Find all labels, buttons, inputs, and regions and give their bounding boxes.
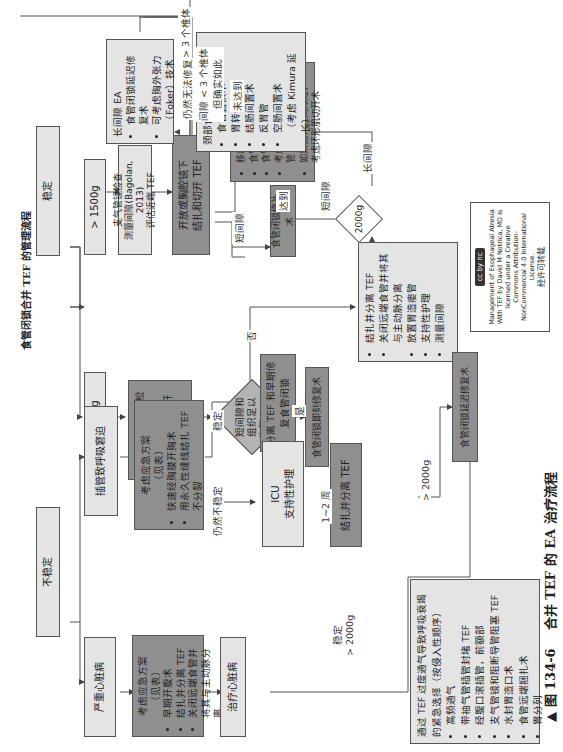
ligate-divide-item: 结扎并分离 TEF bbox=[363, 249, 377, 343]
figure-heading: 食管闭锁合并 TEF 的管理流程 bbox=[18, 211, 33, 350]
edge-label-weeks: 1~2 周 bbox=[318, 489, 332, 524]
edge-label-short-gap-1: 短间隙 bbox=[232, 212, 246, 244]
edge-label-yes: 是 bbox=[292, 405, 306, 417]
figure-caption: ▲ 图 134-6 合并 TEF 的 EA 治疗流程 bbox=[540, 472, 559, 722]
long-gap-ea-item: 食管闭锁延迟修复术 bbox=[124, 46, 150, 125]
decision-2000g: 2000g bbox=[334, 194, 384, 244]
edge-label-stable: 稳定 bbox=[210, 410, 224, 432]
node-treat-cardiac: 治疗心脏病 bbox=[220, 637, 246, 737]
caption-text: 合并 TEF 的 EA 治疗流程 bbox=[543, 472, 558, 630]
node-resp-distress: 插管致呼吸窘迫 bbox=[84, 406, 118, 516]
plan1-item: 用永久性缝线结扎 TEF 不分裂 bbox=[178, 407, 204, 511]
cc-license-icon: cc by nc bbox=[475, 248, 485, 285]
plan1-item: 快速经胸膜开胸术 bbox=[165, 407, 178, 511]
node-stable: 稳定 bbox=[36, 126, 60, 256]
edge-label-not-reached: 未达到 bbox=[230, 80, 244, 112]
edge-label-gap-lt3: 间隙 < 3 个椎体 但确实如此 bbox=[196, 47, 224, 122]
plan2-item: 结扎并分离 TEF bbox=[175, 642, 188, 718]
node-icu-support: ICU 支持性护理 bbox=[262, 441, 304, 547]
node-cardiac-severe: 严重心脏病 bbox=[84, 637, 116, 737]
node-long-gap-ea: 长间隙 EA 食管闭锁延迟修复术 可考虑胸外张力（Foker）技术 bbox=[106, 39, 174, 144]
plan1-title: 考虑应急方案 （见表） bbox=[139, 407, 165, 523]
edge-label-reached: 达到 bbox=[276, 190, 290, 212]
cervical-option: （考虑 Kimura 延长） bbox=[285, 39, 313, 133]
edge-label-stable-gt2000: 稳定 > 2000g bbox=[330, 614, 355, 657]
long-gap-ea-item: 可考虑胸外张力（Foker）技术 bbox=[150, 46, 176, 125]
node-split-tef-early: 分离 TEF 和早期修复食管闭锁 bbox=[260, 354, 296, 452]
cervical-option: 反胃管 bbox=[257, 39, 271, 133]
ligate-divide-item: 关闭远端食管并将其与主动脉分离 bbox=[377, 249, 405, 343]
node-unstable: 不稳定 bbox=[36, 507, 60, 637]
ligate-divide-item: 放置胃造瘘管 bbox=[405, 249, 419, 343]
plan2-item: 早期开腹术 bbox=[162, 642, 175, 718]
excessive-vent-item: 高频通气 bbox=[444, 586, 459, 725]
edge-label-short-gap-2: 短间隙 bbox=[318, 180, 332, 212]
rotated-figure: 食管闭锁合并 TEF 的管理流程 稳定 不稳定 > 1500g 支气管镜检查 测… bbox=[0, 0, 563, 752]
node-bronchoscopy-eval: 支气管镜检查 测量间隙(Bagolan, 2013) 评估近端 TEF bbox=[118, 145, 152, 255]
license-note: 经许可转载 bbox=[538, 209, 546, 325]
node-over-1500g: > 1500g bbox=[84, 159, 106, 255]
node-immediate-repair: 食管闭锁即刻修复术 bbox=[305, 367, 329, 467]
node-emergency-plan-1: 考虑应急方案 （见表） 快速经胸膜开胸术 用永久性缝线结扎 TEF 不分裂 bbox=[134, 400, 204, 530]
excessive-vent-item: 水封胃造口术 bbox=[502, 586, 517, 725]
cervical-option: 空肠间置术 bbox=[271, 39, 285, 133]
excessive-vent-item: 支气管镜和阻断导管阻塞 TEF bbox=[488, 586, 503, 725]
node-emergency-plan-2: 考虑应急方案 （见表） 早期开腹术 结扎并分离 TEF 关闭远端食管并将其与主动… bbox=[132, 635, 204, 737]
ligate-divide-item: 测量间隙 bbox=[433, 249, 447, 343]
ligate-divide-item: 支持性护理 bbox=[419, 249, 433, 343]
excessive-vent-item: 经腹口滚插管，前额部 bbox=[473, 586, 488, 725]
license-text: Management of Esophageal Atresia With TE… bbox=[488, 209, 536, 325]
long-gap-ea-title: 长间隙 EA bbox=[111, 46, 124, 137]
caption-marker-icon: ▲ bbox=[543, 712, 558, 722]
edge-label-still-unrepairable: 仍然无法修复 bbox=[180, 58, 194, 120]
edge-label-still-unstable: 仍然不稳定 bbox=[210, 485, 224, 537]
excessive-vent-item: 带袖气管插管封堵 TEF bbox=[459, 586, 474, 725]
node-delayed-repair: 食管闭锁延迟修复术 bbox=[452, 352, 478, 462]
cervical-option: 结肠间置术 bbox=[243, 39, 257, 133]
plan2-item: 关闭远端食管并将其与主动脉分离 bbox=[187, 642, 225, 718]
node-open-thoracoscopic: 开放或胸腔镜下 结扎和切开 TEF bbox=[172, 135, 210, 255]
excessive-vent-title: 通过 TEF 过度通气导致呼吸衰竭的紧急选择（按侵入性顺序） bbox=[415, 586, 444, 737]
edge-label-no: 否 bbox=[244, 330, 258, 342]
excessive-vent-item: 食管远端捆扎术 bbox=[517, 586, 532, 725]
caption-number: 图 134-6 bbox=[543, 648, 558, 707]
node-ligate-tef: 结扎并分离 TEF bbox=[330, 443, 362, 547]
edge-label-gt2000: > 2000g bbox=[420, 459, 431, 502]
edge-label-long-gap: 长间隙 bbox=[360, 142, 374, 174]
node-excessive-ventilation: 通过 TEF 过度通气导致呼吸衰竭的紧急选择（按侵入性顺序） 高频通气 带袖气管… bbox=[410, 579, 540, 744]
node-ligate-divide: 结扎并分离 TEF 关闭远端食管并将其与主动脉分离 放置胃造瘘管 支持性护理 测… bbox=[358, 242, 458, 362]
plan2-title: 考虑应急方案 （见表） bbox=[137, 642, 162, 730]
license-box: cc by nc Management of Esophageal Atresi… bbox=[470, 202, 550, 332]
